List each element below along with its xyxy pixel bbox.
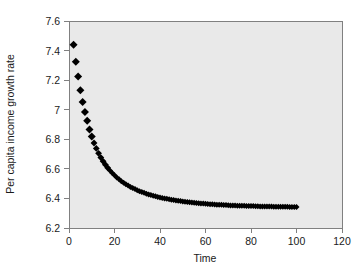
y-tick-label: 7.4: [45, 45, 60, 57]
y-tick-label: 7.2: [45, 74, 60, 86]
y-tick-label: 6.8: [45, 133, 60, 145]
x-tick-label: 60: [200, 235, 212, 247]
y-tick-label: 6.2: [45, 222, 60, 234]
x-tick-label: 120: [333, 235, 351, 247]
y-tick-label: 7.6: [45, 15, 60, 27]
x-axis-tick-labels: 020406080100120: [66, 235, 351, 247]
plot-area-background: [69, 21, 342, 228]
y-axis-title: Per capita income growth rate: [4, 54, 16, 194]
y-tick-label: 7: [54, 104, 60, 116]
chart-svg: 6.26.46.66.877.27.47.6 020406080100120 T…: [0, 0, 364, 274]
x-tick-label: 0: [66, 235, 72, 247]
x-tick-label: 20: [109, 235, 121, 247]
y-tick-label: 6.4: [45, 192, 60, 204]
x-tick-label: 80: [245, 235, 257, 247]
x-tick-label: 40: [154, 235, 166, 247]
y-axis-tick-labels: 6.26.46.66.877.27.47.6: [45, 15, 60, 234]
y-tick-label: 6.6: [45, 163, 60, 175]
x-tick-label: 100: [288, 235, 306, 247]
x-axis-title: Time: [194, 252, 217, 264]
chart-figure: 6.26.46.66.877.27.47.6 020406080100120 T…: [0, 0, 364, 274]
